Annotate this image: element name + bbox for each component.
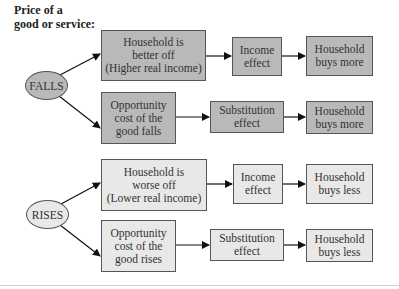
text-line: buys less bbox=[315, 184, 365, 197]
text-line: Substitution bbox=[219, 232, 275, 245]
text-line: Income bbox=[241, 171, 275, 184]
text-line: Opportunity bbox=[110, 99, 166, 112]
rises-label: RISES bbox=[32, 209, 63, 221]
text-line: effect bbox=[241, 184, 275, 197]
text-line: worse off bbox=[107, 179, 202, 192]
text-line: effect bbox=[219, 117, 275, 130]
text-line: Household is bbox=[107, 166, 202, 179]
falls-income-cause-box: Household is better off (Higher real inc… bbox=[101, 30, 206, 81]
text-line: good falls bbox=[110, 125, 166, 138]
bottom-divider bbox=[0, 285, 399, 286]
text-line: Household bbox=[315, 171, 365, 184]
text-line: (Higher real income) bbox=[105, 62, 201, 75]
falls-substitution-result-box: Household buys more bbox=[306, 101, 373, 134]
text-line: Household bbox=[315, 43, 365, 56]
text-line: buys more bbox=[315, 56, 365, 69]
rises-substitution-effect-box: Substitution effect bbox=[210, 229, 284, 261]
text-line: good rises bbox=[110, 253, 166, 266]
falls-income-effect-box: Income effect bbox=[232, 37, 282, 76]
falls-label: FALLS bbox=[29, 80, 63, 92]
rises-income-cause-box: Household is worse off (Lower real incom… bbox=[101, 159, 207, 211]
falls-node: FALLS bbox=[25, 71, 68, 100]
falls-substitution-effect-box: Substitution effect bbox=[210, 101, 284, 133]
rises-income-effect-box: Income effect bbox=[233, 164, 283, 204]
text-line: Household bbox=[315, 105, 365, 118]
rises-substitution-cause-box: Opportunity cost of the good rises bbox=[101, 220, 176, 272]
rises-node: RISES bbox=[26, 200, 69, 229]
text-line: Opportunity bbox=[110, 227, 166, 240]
falls-income-result-box: Household buys more bbox=[306, 36, 373, 76]
text-line: Household is bbox=[105, 36, 201, 49]
text-line: buys more bbox=[315, 118, 365, 131]
text-line: Income bbox=[240, 44, 274, 57]
text-line: effect bbox=[240, 57, 274, 70]
text-line: buys less bbox=[315, 246, 365, 259]
falls-substitution-cause-box: Opportunity cost of the good falls bbox=[101, 92, 176, 144]
text-line: cost of the bbox=[110, 112, 166, 125]
rises-substitution-result-box: Household buys less bbox=[306, 229, 373, 262]
text-line: better off bbox=[105, 49, 201, 62]
rises-income-result-box: Household buys less bbox=[306, 164, 373, 204]
text-line: effect bbox=[219, 245, 275, 258]
text-line: cost of the bbox=[110, 240, 166, 253]
text-line: (Lower real income) bbox=[107, 192, 202, 205]
text-line: Household bbox=[315, 233, 365, 246]
text-line: Substitution bbox=[219, 104, 275, 117]
